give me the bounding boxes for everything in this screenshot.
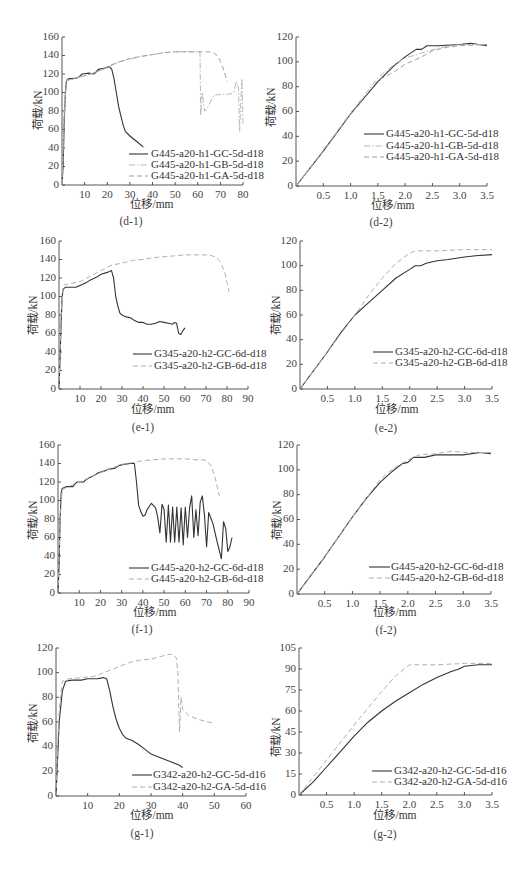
y-tick-label: 105	[280, 641, 297, 653]
x-tick-label: 80	[222, 596, 234, 608]
x-tick-label: 30	[116, 596, 128, 608]
y-tick-label: 80	[286, 283, 298, 295]
x-tick-label: 40	[137, 596, 149, 608]
x-tick-label: 3.5	[485, 392, 499, 404]
y-tick-label: 80	[282, 79, 294, 91]
chart-g-1: 020406080100120102030405060G342-a20-h2-G…	[37, 641, 267, 811]
x-tick-label: 80	[222, 392, 234, 404]
y-tick-label: 60	[285, 704, 297, 716]
y-tick-label: 120	[281, 234, 298, 246]
chart-f-1: 020406080100120140160102030405060708090G…	[39, 438, 264, 608]
y-tick-label: 40	[45, 345, 57, 357]
y-tick-label: 40	[286, 332, 298, 344]
y-tick-label: 100	[278, 462, 295, 474]
x-tick-label: 2.5	[426, 189, 440, 201]
x-tick-label: 30	[117, 392, 129, 404]
legend-label: G342-a20-h2-GA-5d-d16	[153, 780, 267, 792]
x-tick-label: 70	[215, 188, 227, 200]
chart-f-2: 0204060801001200.51.01.52.02.53.03.5G445…	[278, 438, 504, 609]
x-tick-label: 3.0	[456, 597, 470, 609]
x-tick-label: 60	[180, 596, 192, 608]
x-tick-label: 1.0	[344, 189, 358, 201]
y-tick-label: 90	[285, 662, 297, 674]
y-tick-label: 120	[277, 30, 294, 42]
x-tick-label: 3.5	[480, 189, 494, 201]
legend-label: G445-a20-h1-GC-5d-d18	[386, 127, 499, 139]
y-tick-label: 30	[285, 746, 297, 758]
y-tick-label: 120	[37, 641, 54, 653]
x-tick-label: 70	[201, 392, 213, 404]
y-tick-label: 0	[50, 586, 56, 598]
x-tick-label: 20	[114, 799, 126, 811]
chart-e-2: 0204060801001200.51.01.52.02.53.03.5G345…	[281, 234, 508, 404]
y-tick-label: 80	[44, 512, 56, 524]
y-tick-label: 100	[39, 493, 56, 505]
x-tick-label: 50	[209, 799, 221, 811]
x-tick-label: 0.5	[320, 798, 334, 810]
x-tick-label: 90	[243, 392, 255, 404]
x-tick-label: 40	[138, 392, 150, 404]
y-tick-label: 80	[42, 690, 54, 702]
y-tick-label: 60	[286, 308, 298, 320]
x-tick-label: 20	[95, 596, 107, 608]
y-tick-label: 20	[286, 357, 298, 369]
y-tick-label: 140	[40, 252, 57, 264]
y-tick-label: 0	[54, 178, 60, 190]
x-tick-label: 2.5	[430, 798, 444, 810]
y-tick-label: 20	[45, 363, 57, 375]
chart-canvas: 0204060801001201401601020304050607080G44…	[0, 0, 523, 889]
y-tick-label: 140	[39, 456, 56, 468]
y-tick-label: 40	[48, 141, 60, 153]
x-tick-label: 10	[82, 799, 94, 811]
x-tick-label: 3.0	[458, 798, 472, 810]
y-tick-label: 0	[291, 788, 297, 800]
y-tick-label: 20	[48, 159, 60, 171]
y-tick-label: 100	[37, 665, 54, 677]
y-tick-label: 140	[43, 48, 60, 60]
x-tick-label: 3.5	[485, 798, 499, 810]
x-tick-label: 3.0	[453, 189, 467, 201]
x-tick-label: 1.5	[371, 189, 385, 201]
series-line-G445-a20-h1-GC-5d-d18	[296, 43, 487, 186]
y-tick-label: 20	[282, 154, 294, 166]
y-tick-label: 20	[42, 764, 54, 776]
x-tick-label: 80	[238, 188, 250, 200]
chart-d-1: 0204060801001201401601020304050607080G44…	[43, 30, 265, 200]
series-line-G445-a20-h1-GA-5d-d18	[296, 45, 487, 187]
y-tick-label: 100	[281, 258, 298, 270]
x-tick-label: 1.5	[373, 597, 387, 609]
x-tick-label: 2.0	[401, 597, 415, 609]
legend-label: G345-a20-h2-GB-6d-d18	[395, 356, 508, 368]
y-tick-label: 100	[277, 54, 294, 66]
x-tick-label: 3.0	[458, 392, 472, 404]
chart-e-1: 020406080100120140160102030405060708090G…	[40, 234, 267, 404]
y-tick-label: 80	[283, 487, 295, 499]
series-line-G445-a20-h1-GB-5d-d18	[296, 45, 487, 187]
y-tick-label: 60	[48, 122, 60, 134]
y-tick-label: 160	[43, 30, 60, 42]
y-tick-label: 80	[48, 104, 60, 116]
legend-label: G345-a20-h2-GB-6d-d18	[154, 359, 267, 371]
x-tick-label: 20	[96, 392, 108, 404]
series-line-G345-a20-h2-GB-6d-d18	[300, 250, 492, 389]
y-tick-label: 45	[285, 725, 297, 737]
x-tick-label: 0.5	[318, 597, 332, 609]
x-tick-label: 3.5	[484, 597, 498, 609]
x-tick-label: 2.5	[430, 392, 444, 404]
y-tick-label: 60	[282, 104, 294, 116]
x-tick-label: 10	[74, 596, 86, 608]
legend-label: G445-a20-h2-GB-6d-d18	[391, 571, 504, 583]
y-tick-label: 15	[285, 767, 297, 779]
x-tick-label: 1.5	[375, 392, 389, 404]
x-tick-label: 50	[159, 392, 171, 404]
x-tick-label: 60	[192, 188, 204, 200]
y-tick-label: 40	[283, 537, 295, 549]
x-tick-label: 2.0	[402, 798, 416, 810]
x-tick-label: 2.0	[403, 392, 417, 404]
y-tick-label: 0	[292, 382, 298, 394]
x-tick-label: 1.0	[347, 798, 361, 810]
y-tick-label: 0	[289, 587, 295, 599]
x-tick-label: 40	[147, 188, 159, 200]
y-tick-label: 0	[51, 382, 57, 394]
x-tick-label: 20	[102, 188, 114, 200]
